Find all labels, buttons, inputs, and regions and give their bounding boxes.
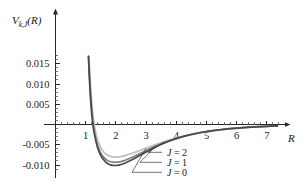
legend-equals: = [174, 167, 180, 178]
potential-energy-chart: 1234567 0.0150.0100.005-0.005-0.010 J=2J… [0, 0, 303, 191]
chart-canvas: 1234567 0.0150.0100.005-0.005-0.010 J=2J… [0, 0, 303, 191]
y-tick-label: -0.010 [22, 160, 49, 171]
curve-j-2 [89, 56, 278, 157]
y-axis-title-arg: (R) [27, 14, 41, 27]
x-tick-label: 7 [264, 130, 269, 141]
y-tick-label: 0.005 [26, 99, 50, 110]
y-axis-tick-labels: 0.0150.0100.005-0.005-0.010 [22, 58, 49, 170]
y-axis-title-text: Vk,J(R) [12, 14, 42, 29]
legend-label-j-0: J=0 [167, 167, 187, 178]
legend-symbol: J [167, 167, 172, 178]
y-tick-label: 0.015 [26, 58, 50, 69]
y-tick-label: -0.005 [22, 139, 49, 150]
axis-group [44, 14, 285, 178]
legend: J=2J=1J=0 [167, 147, 187, 178]
x-axis-title: R [287, 132, 295, 144]
x-tick-label: 1 [83, 130, 88, 141]
y-axis-title: Vk,J(R) [12, 14, 42, 29]
x-tick-label: 3 [143, 130, 148, 141]
y-tick-label: 0.010 [26, 79, 50, 90]
legend-value: 0 [182, 167, 187, 178]
x-tick-label: 6 [234, 130, 239, 141]
x-tick-label: 2 [113, 130, 118, 141]
